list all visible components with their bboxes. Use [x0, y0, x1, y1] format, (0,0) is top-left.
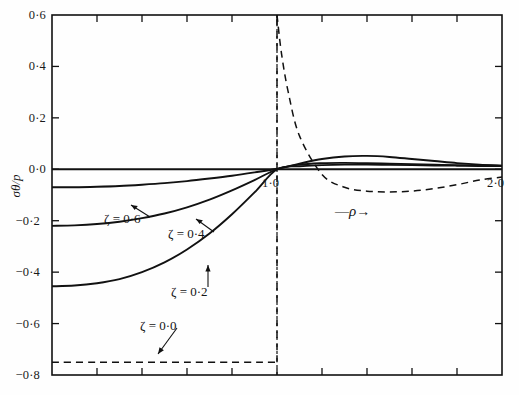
y-axis-title: σθ/p — [8, 156, 24, 216]
x-tick-label-2-0: 2·0 — [487, 176, 504, 191]
x-axis-title-arrow: → — [356, 204, 370, 219]
y-tick-label-6: −0·6 — [0, 317, 40, 332]
y-tick-label-4: −0·2 — [0, 214, 40, 229]
y-axis-title-text: σθ/p — [8, 175, 23, 198]
y-tick-label-1: 0·4 — [2, 59, 46, 74]
y-tick-label-5: −0·4 — [0, 265, 40, 280]
y-tick-label-2: 0·2 — [2, 111, 46, 126]
plot-canvas — [0, 0, 519, 395]
y-tick-label-0: 0·6 — [2, 8, 46, 23]
x-axis-title: —ρ→ — [335, 203, 370, 220]
x-tick-label-1-0: 1·0 — [262, 176, 279, 191]
figure-container: 0·6 0·4 0·2 0·0 −0·2 −0·4 −0·6 −0·8 1·0 … — [0, 0, 519, 395]
x-axis-title-dash: — — [335, 204, 349, 219]
curve-label-zeta-04: ζ = 0·4 — [168, 226, 205, 242]
curve-label-zeta-00: ζ = 0·0 — [140, 318, 177, 334]
curve-label-zeta-02: ζ = 0·2 — [171, 284, 208, 300]
y-tick-label-7: −0·8 — [0, 368, 40, 383]
curve-label-zeta-06: ζ = 0·6 — [104, 211, 141, 227]
